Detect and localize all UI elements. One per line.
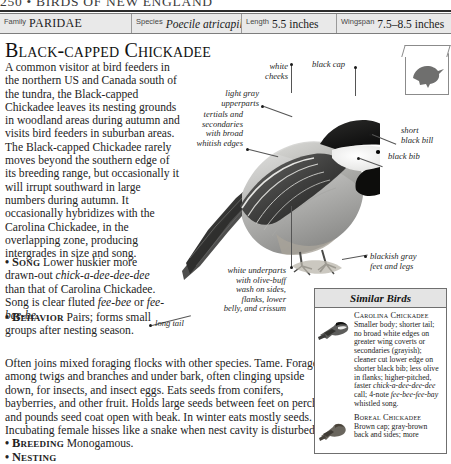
data-value-species: Poecile atricapilla xyxy=(166,18,242,30)
header-rule xyxy=(0,10,451,12)
leader-white-cheeks xyxy=(291,65,292,93)
dot-tertials xyxy=(246,148,249,151)
callout-black-cap: black cap xyxy=(312,60,372,70)
intro-paragraph: A common visitor at bird feeders in the … xyxy=(5,61,180,260)
breeding-text: Monogamous. xyxy=(67,437,134,450)
boreal-chickadee-desc: Brown cap; gray-brown back and sides; mo… xyxy=(354,422,427,440)
callout-blackish-gray-feet: blackish gray feet and legs xyxy=(370,252,440,271)
breeding-bullet: • xyxy=(5,437,9,450)
section-behavior-continued: Often joins mixed foraging flocks with o… xyxy=(5,357,327,464)
data-cell-length: Length 5.5 inches xyxy=(242,14,337,33)
data-label-family: Family xyxy=(4,17,26,26)
similar-birds-box: Similar Birds Carolina Chickadee Smaller… xyxy=(314,288,447,454)
carolina-chickadee-thumbnail xyxy=(318,312,354,409)
bird-feet-and-legs xyxy=(292,250,342,275)
callout-black-bib: black bib xyxy=(388,152,446,162)
callout-white-cheeks: white cheeks xyxy=(248,62,288,81)
bird-eye xyxy=(376,150,380,154)
callout-light-gray-upperparts: light gray upperparts xyxy=(189,89,259,108)
similar-bird-entry: Boreal Chickadee Brown cap; gray-brown b… xyxy=(315,409,446,448)
dot-white-underparts xyxy=(290,266,293,269)
behavior-keyword: Behavior xyxy=(12,310,64,324)
carolina-chickadee-desc-3: whistled song. xyxy=(354,399,398,408)
callout-long-tail: long tail xyxy=(155,319,205,329)
bird-silhouette-icon xyxy=(406,54,446,92)
dot-feet-legs xyxy=(364,255,367,258)
data-label-species: Species xyxy=(136,17,163,26)
leader-black-cap xyxy=(355,68,356,96)
dot-white-cheeks xyxy=(290,63,293,66)
data-value-length: 5.5 inches xyxy=(272,18,319,30)
leader-white-underparts xyxy=(291,206,292,268)
callout-short-black-bill: short black bill xyxy=(401,126,449,145)
section-behavior: • Behavior Pairs; forms small groups aft… xyxy=(5,311,165,338)
dot-short-black-bill xyxy=(369,133,372,136)
carolina-chickadee-song: fee-bee-fee-bay xyxy=(391,390,438,399)
data-value-family: PARIDAE xyxy=(29,16,82,31)
dot-light-gray-upperparts xyxy=(261,105,264,108)
behavior-bullet: • xyxy=(5,311,9,324)
data-label-wingspan: Wingspan xyxy=(341,17,374,26)
carolina-chickadee-text: Carolina Chickadee Smaller body; shorter… xyxy=(354,312,442,409)
silhouette-inset xyxy=(405,53,449,95)
callout-white-underparts: white underparts with olive-buff wash on… xyxy=(208,266,286,314)
silhouette-page-flap xyxy=(401,45,450,57)
song-italic-2: fee-bee xyxy=(98,296,131,309)
boreal-chickadee-thumbnail xyxy=(318,414,354,448)
data-cell-family: Family PARIDAE xyxy=(0,14,132,33)
behavior-wide-text: Often joins mixed foraging flocks with o… xyxy=(5,357,322,437)
song-bullet: • xyxy=(5,256,9,269)
carolina-chickadee-desc-2: call; 4-note xyxy=(354,390,391,399)
dot-black-bib xyxy=(357,157,360,160)
dot-long-tail xyxy=(149,324,152,327)
song-text-3: or xyxy=(131,296,146,309)
data-cell-wingspan: Wingspan 7.5–8.5 inches xyxy=(337,14,451,33)
callout-tertials-secondaries: tertials and secondaries with broad whit… xyxy=(163,110,243,148)
song-keyword: Song xyxy=(12,255,40,269)
boreal-chickadee-text: Boreal Chickadee Brown cap; gray-brown b… xyxy=(354,414,442,448)
similar-bird-entry: Carolina Chickadee Smaller body; shorter… xyxy=(315,308,446,409)
data-cell-species: Species Poecile atricapilla xyxy=(132,14,242,33)
nesting-keyword: Nesting xyxy=(12,450,56,464)
song-italic-1: chick-a-dee-dee-dee xyxy=(56,269,150,282)
carolina-chickadee-call: chick-a-dee-dee-dee xyxy=(373,381,435,390)
species-data-strip: Family PARIDAE Species Poecile atricapil… xyxy=(0,13,451,34)
nesting-bullet: • xyxy=(5,451,9,464)
similar-birds-heading: Similar Birds xyxy=(315,289,446,308)
data-label-length: Length xyxy=(246,17,269,26)
data-value-wingspan: 7.5–8.5 inches xyxy=(377,18,444,30)
breeding-keyword: Breeding xyxy=(12,436,64,450)
carolina-chickadee-desc-1: Smaller body; shorter tail; no broad whi… xyxy=(354,320,439,391)
